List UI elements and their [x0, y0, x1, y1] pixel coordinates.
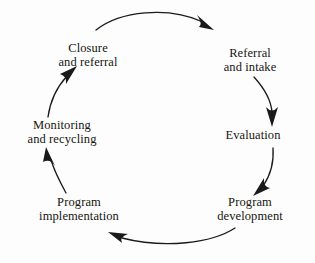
node-program-implementation: Program implementation [39, 196, 119, 223]
node-program-development-line1: Program [217, 196, 283, 210]
arrow-closure-to-referral [96, 12, 214, 30]
arrow-referral-to-evaluation [254, 77, 278, 127]
arrow-evaluation-to-development [253, 148, 273, 196]
node-closure-line2: and referral [58, 55, 117, 69]
node-evaluation: Evaluation [225, 129, 280, 143]
node-program-implementation-line2: implementation [39, 209, 119, 223]
node-monitoring-recycling-line2: and recycling [28, 132, 97, 146]
cycle-diagram: Closure and referral Referral and intake… [0, 0, 315, 263]
node-referral-intake-line2: and intake [224, 60, 277, 74]
arrow-implementation-to-monitoring [43, 147, 66, 193]
node-program-development: Program development [217, 196, 283, 223]
node-program-implementation-line1: Program [39, 196, 119, 210]
node-evaluation-line1: Evaluation [225, 129, 280, 143]
node-monitoring-recycling: Monitoring and recycling [28, 119, 97, 146]
node-closure: Closure and referral [58, 42, 117, 69]
node-closure-line1: Closure [58, 42, 117, 56]
arrow-development-to-implementation [108, 228, 235, 244]
arrow-monitoring-to-closure [48, 66, 77, 117]
node-program-development-line2: development [217, 209, 283, 223]
node-referral-intake-line1: Referral [224, 47, 277, 61]
node-referral-intake: Referral and intake [224, 47, 277, 74]
node-monitoring-recycling-line1: Monitoring [28, 119, 97, 133]
